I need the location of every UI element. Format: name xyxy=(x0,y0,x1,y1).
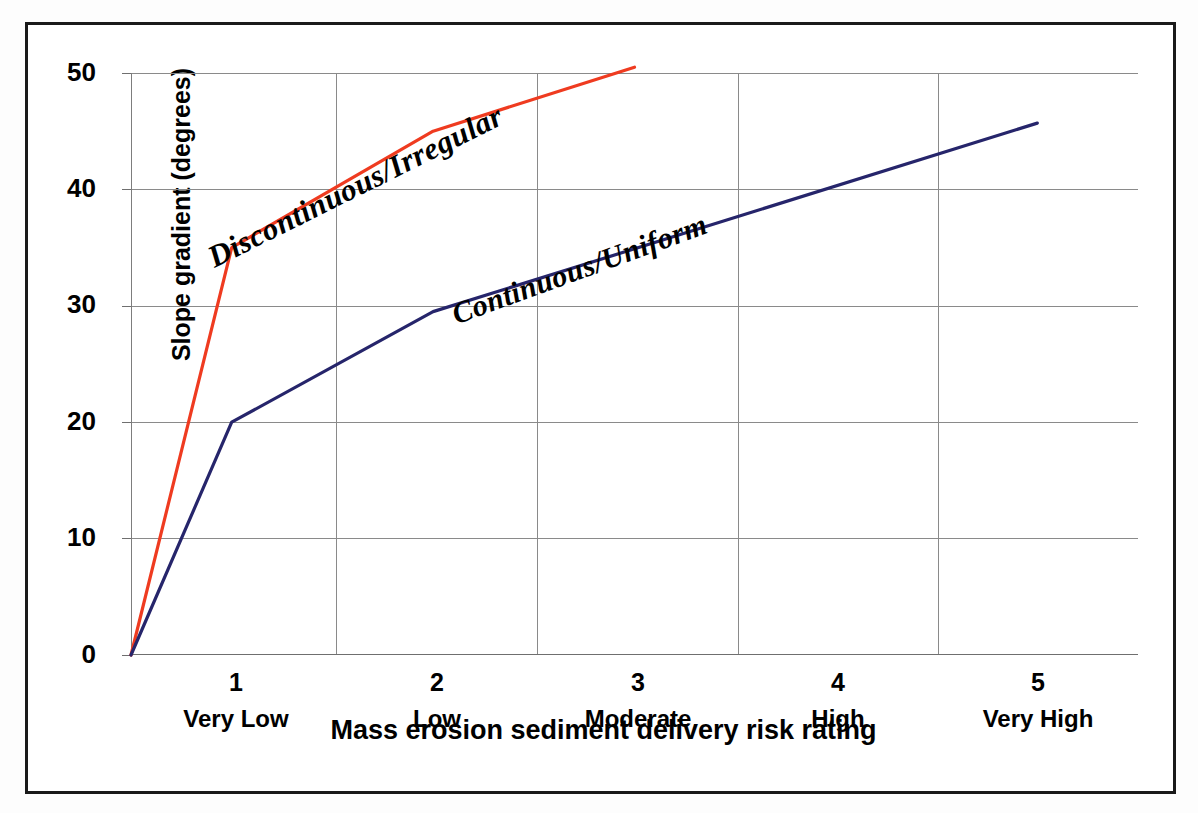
y-tick-mark-50 xyxy=(122,73,131,74)
series-line-continuous-uniform xyxy=(131,123,1037,655)
y-tick-label-10: 10 xyxy=(38,524,96,550)
y-tick-mark-10 xyxy=(122,538,131,539)
figure-frame: Slope gradient (degrees) 50 40 30 20 10 … xyxy=(25,22,1176,794)
series-plot xyxy=(131,73,1138,655)
y-tick-mark-20 xyxy=(122,422,131,423)
x-axis-title: Mass erosion sediment delivery risk rati… xyxy=(28,715,1179,746)
y-tick-label-30: 30 xyxy=(38,291,96,317)
y-tick-label-0: 0 xyxy=(38,641,96,667)
y-tick-label-40: 40 xyxy=(38,175,96,201)
scanned-page: Slope gradient (degrees) 50 40 30 20 10 … xyxy=(0,0,1198,813)
x-tick-number-3: 3 xyxy=(558,670,718,695)
x-tick-number-2: 2 xyxy=(357,670,517,695)
y-tick-label-50: 50 xyxy=(38,59,96,85)
x-tick-number-5: 5 xyxy=(958,670,1118,695)
y-tick-mark-30 xyxy=(122,306,131,307)
y-tick-mark-40 xyxy=(122,189,131,190)
x-tick-number-4: 4 xyxy=(758,670,918,695)
x-tick-number-1: 1 xyxy=(156,670,316,695)
plot-area xyxy=(131,73,1138,655)
y-tick-label-20: 20 xyxy=(38,408,96,434)
